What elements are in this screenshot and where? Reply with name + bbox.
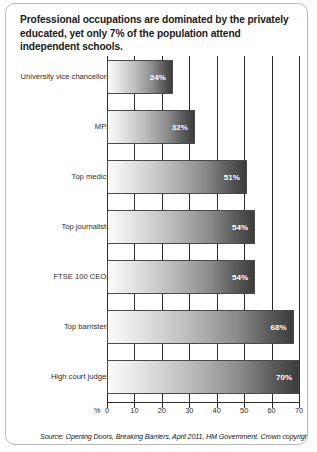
category-label: University vice chancellors <box>21 72 110 81</box>
chart-row: High court judges70% <box>6 360 308 394</box>
chart-row: FTSE 100 CEOs54% <box>6 260 308 294</box>
category-label: Top barristers <box>64 322 110 331</box>
x-tick-label-60: 60 <box>267 406 275 415</box>
x-tick-label-40: 40 <box>213 406 221 415</box>
chart-title: Professional occupations are dominated b… <box>20 13 292 54</box>
chart-card: Professional occupations are dominated b… <box>5 3 308 445</box>
chart-row: University vice chancellors24% <box>6 60 308 94</box>
bar-4: 54% <box>107 210 255 244</box>
bar-value-label: 68% <box>270 323 286 332</box>
x-tick-label-70: 70 <box>295 406 303 415</box>
axis-unit-label: % <box>94 406 101 415</box>
x-tick-label-50: 50 <box>240 406 248 415</box>
bar-5: 54% <box>107 260 255 294</box>
bar-value-label: 70% <box>276 373 292 382</box>
chart-row: Top medics51% <box>6 160 308 194</box>
bar-value-label: 54% <box>232 273 248 282</box>
bar-value-label: 51% <box>224 173 240 182</box>
chart-plot-area: University vice chancellors24%MPs32%Top … <box>6 56 308 408</box>
x-tick-label-0: 0 <box>105 406 109 415</box>
category-label: High court judges <box>51 372 110 381</box>
bar-3: 51% <box>107 160 247 194</box>
chart-row: Top journalists54% <box>6 210 308 244</box>
chart-row: MPs32% <box>6 110 308 144</box>
bar-2: 32% <box>107 110 195 144</box>
x-tick-label-20: 20 <box>158 406 166 415</box>
chart-row: Top barristers68% <box>6 310 308 344</box>
category-label: Top medics <box>72 172 110 181</box>
x-tick-label-10: 10 <box>130 406 138 415</box>
bar-7: 70% <box>107 360 299 394</box>
category-label: Top journalists <box>61 222 110 231</box>
bar-1: 24% <box>107 60 173 94</box>
bar-value-label: 32% <box>172 123 188 132</box>
x-tick-label-30: 30 <box>185 406 193 415</box>
category-label: FTSE 100 CEOs <box>53 272 110 281</box>
bar-value-label: 54% <box>232 223 248 232</box>
chart-source-note: Source: Opening Doors, Breaking Barriers… <box>40 432 302 441</box>
x-axis-line <box>107 402 299 403</box>
bar-value-label: 24% <box>150 73 166 82</box>
bar-6: 68% <box>107 310 294 344</box>
